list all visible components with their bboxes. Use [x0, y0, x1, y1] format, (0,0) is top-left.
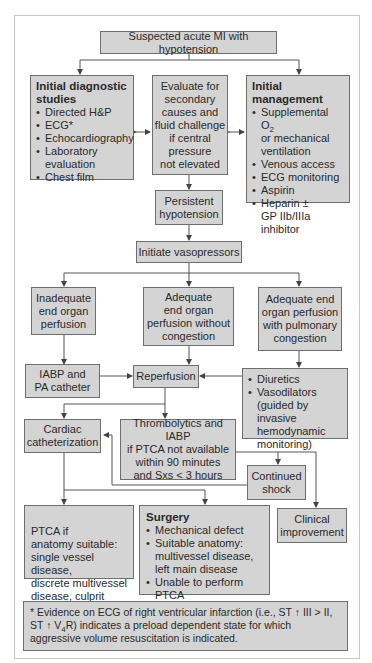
surgery-title: Surgery: [146, 511, 263, 524]
list-item: Venous access: [252, 158, 344, 171]
footnote-text-3: ST: [30, 619, 46, 631]
node-clinical: Clinical improvement: [277, 508, 347, 543]
line-vaso-split: [64, 262, 299, 273]
node-cardiac-cath: Cardiac catheterization: [24, 419, 101, 453]
node-adequate-congestion: Adequate end organ perfusion with pulmon…: [258, 287, 342, 351]
list-item: Vasodilators (guided by invasive hemodyn…: [248, 386, 342, 451]
clinical-label: Clinical improvement: [280, 513, 344, 539]
node-vasopressors: Initiate vasopressors: [136, 241, 242, 263]
reperfusion-label: Reperfusion: [136, 370, 195, 383]
list-item: Laboratory evaluation: [36, 145, 128, 171]
node-surgery: Surgery Mechanical defect Suitable anato…: [139, 505, 270, 595]
persistent-label: Persistent hypotension: [159, 195, 218, 221]
footnote-text-5: R) indicates a preload dependent state f…: [30, 619, 291, 644]
list-item: Suitable anatomy: multivessel disease, l…: [146, 537, 263, 576]
node-evaluate: Evaluate for secondary causes and fluid …: [152, 75, 228, 175]
evaluate-label: Evaluate for secondary causes and fluid …: [155, 80, 225, 171]
list-item: Chest film: [36, 171, 128, 184]
list-item: Directed H&P: [36, 106, 128, 119]
adequate-no-congestion-label: Adequate end organ perfusion without con…: [147, 291, 230, 343]
footnote-text-4: V: [51, 619, 61, 631]
inadequate-label: Inadequate end organ perfusion: [36, 292, 91, 331]
list-item: ECG*: [36, 119, 128, 132]
node-continued-shock: Continued shock: [247, 465, 306, 500]
vasopressors-label: Initiate vasopressors: [139, 246, 240, 259]
node-inadequate: Inadequate end organ perfusion: [31, 287, 96, 335]
node-start-label: Suspected acute MI with hypotension: [101, 30, 276, 56]
footnote-text-1: * Evidence on ECG of right ventricular i…: [30, 606, 295, 618]
footnote-text-2: III > II,: [300, 606, 332, 618]
list-item: ECG monitoring: [252, 171, 344, 184]
diagnostic-list: Directed H&P ECG* Echocardiography Labor…: [36, 106, 128, 184]
continued-shock-label: Continued shock: [251, 470, 301, 496]
list-item: Aspirin: [252, 184, 344, 197]
list-item: Supplemental O2 or mechanical ventilatio…: [252, 106, 344, 158]
list-item: Diuretics: [248, 373, 342, 386]
iabp-label: IABP and PA catheter: [34, 368, 90, 394]
node-management: Initial management Supplemental O2 or me…: [246, 75, 350, 203]
management-list: Supplemental O2 or mechanical ventilatio…: [252, 106, 344, 236]
list-item: Mechanical defect: [146, 524, 263, 537]
node-reperfusion: Reperfusion: [133, 365, 199, 388]
diuretics-list: Diuretics Vasodilators (guided by invasi…: [248, 373, 342, 451]
node-diuretics: Diuretics Vasodilators (guided by invasi…: [242, 368, 348, 439]
node-ptca: PTCA if anatomy suitable: single vessel …: [24, 505, 134, 579]
o2-suffix: or mechanical ventilation: [261, 132, 329, 157]
cardiac-cath-label: Cardiac catheterization: [27, 423, 99, 449]
node-diagnostic: Initial diagnostic studies Directed H&P …: [30, 75, 134, 180]
management-title: Initial management: [252, 80, 344, 106]
adequate-congestion-label: Adequate end organ perfusion with pulmon…: [262, 293, 338, 345]
node-adequate-no-congestion: Adequate end organ perfusion without con…: [143, 287, 234, 346]
surgery-list: Mechanical defect Suitable anatomy: mult…: [146, 524, 263, 602]
node-persistent: Persistent hypotension: [155, 190, 223, 225]
node-thrombolytics: Thrombolytics and IABP if PTCA not avail…: [120, 419, 236, 480]
node-iabp: IABP and PA catheter: [25, 364, 100, 398]
diagnostic-title: Initial diagnostic studies: [36, 80, 128, 106]
thrombolytics-label: Thrombolytics and IABP if PTCA not avail…: [121, 417, 235, 482]
list-item: Echocardiography: [36, 132, 128, 145]
footnote: * Evidence on ECG of right ventricular i…: [23, 601, 348, 651]
list-item: Unable to perform PTCA: [146, 576, 263, 602]
node-start: Suspected acute MI with hypotension: [100, 31, 277, 54]
list-item: Heparin ± GP IIb/IIIa inhibitor: [252, 197, 344, 236]
